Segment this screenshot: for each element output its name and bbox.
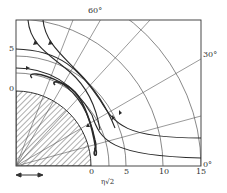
y-tick-5: 5 bbox=[9, 45, 14, 53]
angle-label-30: 30° bbox=[203, 51, 217, 59]
y-tick-0: 0 bbox=[9, 85, 14, 93]
x-tick-15: 15 bbox=[196, 168, 206, 176]
x-axis-label: η√2 bbox=[101, 179, 114, 186]
angle-label-60: 60° bbox=[88, 7, 102, 15]
x-tick-0: 0 bbox=[89, 168, 94, 176]
scale-arrow bbox=[16, 173, 43, 177]
x-tick-10: 10 bbox=[159, 168, 169, 176]
x-tick-5: 5 bbox=[124, 168, 129, 176]
diagram-canvas bbox=[0, 0, 227, 193]
